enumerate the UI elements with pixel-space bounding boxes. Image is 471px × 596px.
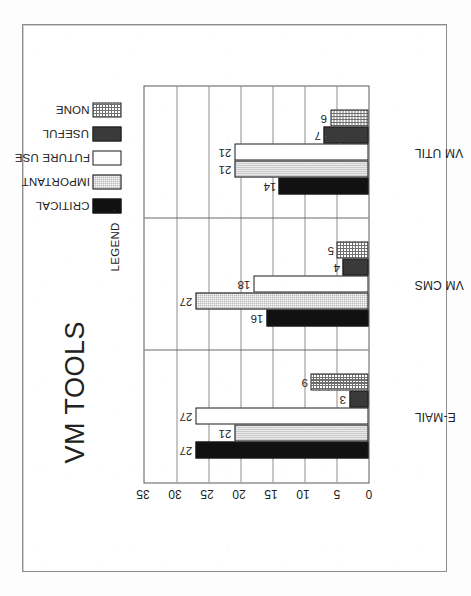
bar-value-label: 21 [218,427,231,439]
value-tick-10: 10 [296,486,312,516]
bar-future-use: 27 [144,408,368,425]
bar-value-label: 14 [263,180,276,192]
legend-label-useful: USEFUL [42,127,89,139]
legend-item-important: IMPORTANT [21,174,121,189]
legend-swatch-future-use [92,150,121,165]
bar-value-label: 27 [179,410,192,422]
bar-important: 21 [144,425,368,442]
bar-value-label: 3 [339,393,345,405]
bar-groups: 272127391627184514212176 [144,86,368,482]
chart-legend: LEGEND CRITICAL IMPORTANT FUTURE USE USE… [37,102,121,271]
bar-future-use: 21 [144,144,368,161]
bar-value-label: 16 [250,312,263,324]
value-tick-0: 0 [361,486,375,516]
bar-rect [336,242,368,259]
paper-sheet: VM TOOLS LEGEND CRITICAL IMPORTANT FUTUR… [22,24,447,572]
legend-item-critical: CRITICAL [35,198,121,213]
bar-value-label: 9 [301,376,307,388]
bar-rect [342,259,368,276]
plot-area: 05101520253035 E-MAILVM CMSVM UTIL 27212… [143,85,369,483]
bar-rect [266,310,368,327]
legend-swatch-none [92,102,121,117]
bar-rect [323,127,368,144]
bar-rect [195,408,368,425]
legend-item-none: NONE [55,102,121,117]
bar-useful: 7 [144,127,368,144]
legend-label-none: NONE [55,103,89,115]
bar-useful: 3 [144,391,368,408]
legend-swatch-critical [92,198,121,213]
bar-rect [234,161,368,178]
bar-future-use: 18 [144,276,368,293]
value-tick-25: 25 [200,486,216,516]
bar-important: 21 [144,161,368,178]
bar-important: 27 [144,293,368,310]
bar-value-label: 4 [333,261,339,273]
value-tick-15: 15 [264,486,280,516]
bar-rect [234,144,368,161]
bar-value-label: 18 [237,278,250,290]
bar-none: 6 [144,110,368,127]
legend-swatch-important [92,174,121,189]
bar-rect [330,110,368,127]
bar-rect [253,276,368,293]
bar-value-label: 5 [327,244,333,256]
bar-rect [195,442,368,459]
chart-title: VM TOOLS [59,320,90,463]
bar-useful: 4 [144,259,368,276]
bar-none: 9 [144,374,368,391]
bar-value-label: 27 [179,444,192,456]
value-tick-20: 20 [232,486,248,516]
rotated-chart-canvas: VM TOOLS LEGEND CRITICAL IMPORTANT FUTUR… [23,25,446,571]
bar-group-e-mail: 27212739 [144,350,368,482]
bar-value-label: 21 [218,146,231,158]
bar-value-label: 6 [320,112,326,124]
bar-value-label: 7 [314,129,320,141]
bar-value-label: 27 [179,295,192,307]
category-label-vm-util: VM UTIL [414,145,463,159]
legend-item-useful: USEFUL [42,126,121,141]
legend-label-future-use: FUTURE USE [14,151,89,163]
category-label-vm-cms: VM CMS [414,277,463,291]
bar-rect [310,374,368,391]
legend-label-important: IMPORTANT [21,175,89,187]
bar-rect [349,391,368,408]
bar-rect [234,425,368,442]
bar-group-vm-util: 14212176 [144,86,368,218]
legend-swatch-useful [92,126,121,141]
legend-title: LEGEND [108,222,120,271]
value-tick-30: 30 [168,486,184,516]
bar-critical: 16 [144,310,368,327]
legend-label-critical: CRITICAL [35,199,89,211]
value-tick-35: 35 [136,486,152,516]
bar-none: 5 [144,242,368,259]
category-label-e-mail: E-MAIL [414,409,455,423]
legend-item-future-use: FUTURE USE [14,150,121,165]
bar-rect [278,178,368,195]
bar-critical: 14 [144,178,368,195]
bar-rect [195,293,368,310]
bar-group-vm-cms: 16271845 [144,218,368,350]
value-tick-5: 5 [329,486,343,516]
scanned-page: VM TOOLS LEGEND CRITICAL IMPORTANT FUTUR… [0,0,471,596]
bar-critical: 27 [144,442,368,459]
bar-value-label: 21 [218,163,231,175]
